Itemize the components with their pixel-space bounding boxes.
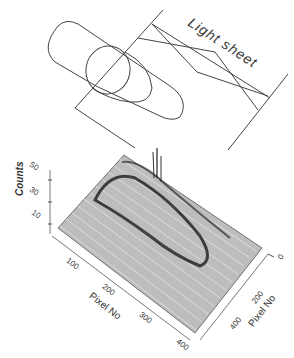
inner-ellipse [92,52,152,102]
surface-plot [48,148,274,340]
figure: Light sheet Counts 50 30 10 100 200 300 … [0,0,294,358]
z-axis-label: Counts [14,162,25,196]
